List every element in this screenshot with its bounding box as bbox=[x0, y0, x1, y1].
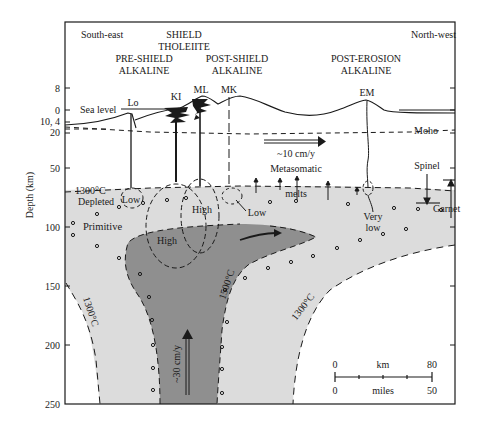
y-axis-label: Depth (km) bbox=[24, 172, 36, 218]
scale-km-label: km bbox=[377, 359, 390, 370]
stage-shield-line2: THOLEIITE bbox=[158, 41, 210, 52]
plume-velocity-label: ~30 cm/y bbox=[171, 345, 182, 383]
plate-motion-label: ~10 cm/y bbox=[277, 148, 315, 159]
volcano-ki: KI bbox=[171, 91, 182, 102]
volcano-em: EM bbox=[360, 87, 375, 98]
tick-150: 150 bbox=[45, 281, 60, 292]
shield-lava-ki bbox=[164, 107, 190, 123]
melts-label: melts bbox=[285, 188, 307, 199]
stage-post-erosion-line2: ALKALINE bbox=[341, 65, 392, 76]
scale-bar bbox=[335, 372, 432, 382]
melt-mk-label: Low bbox=[248, 207, 267, 218]
tick-10-4: 10, 4 bbox=[40, 116, 60, 127]
plume-cross-section-diagram: 8 0 10, 4 20 50 100 150 200 250 Depth (k… bbox=[0, 0, 489, 421]
melt-lo-label: Low bbox=[122, 194, 141, 205]
y-axis-tick-labels: 8 0 10, 4 20 50 100 150 200 250 bbox=[40, 83, 60, 410]
moho-label: Moho bbox=[414, 125, 438, 136]
stage-post-shield-line2: ALKALINE bbox=[212, 65, 263, 76]
tick-200: 200 bbox=[45, 340, 60, 351]
garnet-label: Garnet bbox=[433, 203, 460, 214]
scale-miles-label: miles bbox=[372, 385, 394, 396]
stage-shield-line1: SHIELD bbox=[166, 29, 202, 40]
primitive-label: Primitive bbox=[83, 221, 122, 232]
hot-mantle-region bbox=[65, 186, 455, 404]
scale-km-start: 0 bbox=[333, 359, 338, 370]
volcano-lo: Lo bbox=[127, 97, 138, 108]
volcano-ml: ML bbox=[194, 84, 209, 95]
stage-pre-shield-line1: PRE-SHIELD bbox=[115, 53, 172, 64]
direction-north-west: North-west bbox=[411, 29, 456, 40]
plate-motion-arrow bbox=[264, 136, 326, 147]
depleted-label: Depleted bbox=[78, 196, 114, 207]
metasomatic-label: Metasomatic bbox=[270, 163, 322, 174]
melt-em-line1: Very bbox=[364, 211, 383, 222]
sea-level-label: Sea level bbox=[80, 104, 117, 115]
seafloor-left bbox=[65, 113, 136, 128]
tick-100: 100 bbox=[45, 222, 60, 233]
tick-8: 8 bbox=[55, 83, 60, 94]
scale-miles-end: 50 bbox=[427, 385, 437, 396]
melt-ki-label: High bbox=[157, 235, 177, 246]
stage-post-shield-line1: POST-SHIELD bbox=[206, 53, 268, 64]
melt-ml-label: High bbox=[192, 204, 212, 215]
tick-20: 20 bbox=[50, 127, 60, 138]
scale-miles-start: 0 bbox=[333, 385, 338, 396]
conduit-em bbox=[367, 101, 369, 188]
shield-lava-ml bbox=[192, 99, 211, 120]
spinel-label: Spinel bbox=[414, 160, 440, 171]
stage-pre-shield-line2: ALKALINE bbox=[119, 65, 170, 76]
isotherm-1300-top-label: 1300°C bbox=[75, 185, 106, 196]
stage-post-erosion-line1: POST-EROSION bbox=[331, 53, 401, 64]
tick-50: 50 bbox=[50, 163, 60, 174]
melt-em-line2: low bbox=[366, 222, 382, 233]
direction-south-east: South-east bbox=[81, 29, 123, 40]
moho-line bbox=[65, 127, 455, 134]
scale-km-end: 80 bbox=[427, 359, 437, 370]
tick-250: 250 bbox=[45, 399, 60, 410]
volcano-mk: MK bbox=[221, 84, 238, 95]
tick-0: 0 bbox=[55, 105, 60, 116]
